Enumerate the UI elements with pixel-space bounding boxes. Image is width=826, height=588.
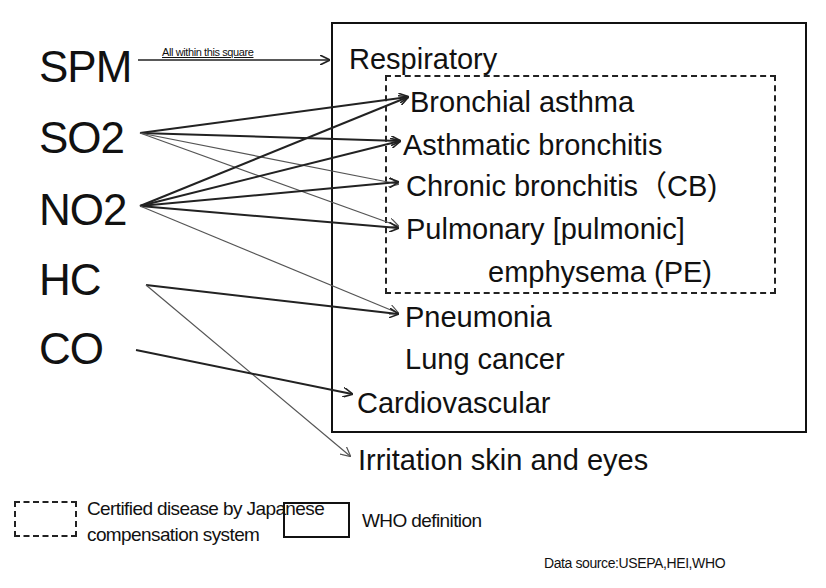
disease-pulmonary: Pulmonary [pulmonic] — [406, 215, 685, 244]
pollutant-co: CO — [39, 327, 103, 371]
legend-solid-label: WHO definition — [362, 510, 481, 533]
spm-note: All within this square — [162, 47, 253, 58]
data-source: Data source:USEPA,HEI,WHO — [544, 556, 725, 570]
disease-emphysema: emphysema (PE) — [488, 258, 712, 287]
pollutant-so2: SO2 — [39, 116, 124, 160]
legend-dashed-swatch — [14, 501, 77, 537]
disease-pneumonia: Pneumonia — [405, 303, 552, 332]
disease-asthmatic-bronchitis: Asthmatic bronchitis — [403, 131, 663, 160]
pollutant-no2: NO2 — [39, 188, 126, 232]
legend-dashed-label-line2: compensation system — [87, 524, 259, 547]
respiratory-title: Respiratory — [349, 45, 497, 74]
disease-bronchial-asthma: Bronchial asthma — [410, 88, 634, 117]
pollutant-hc: HC — [39, 258, 101, 302]
pollutant-spm: SPM — [39, 45, 131, 89]
disease-lung-cancer: Lung cancer — [405, 345, 565, 374]
disease-irritation: Irritation skin and eyes — [358, 446, 648, 475]
disease-cardiovascular: Cardiovascular — [357, 389, 550, 418]
disease-chronic-bronchitis: Chronic bronchitis（CB) — [406, 172, 717, 201]
legend-solid-swatch — [283, 502, 350, 538]
